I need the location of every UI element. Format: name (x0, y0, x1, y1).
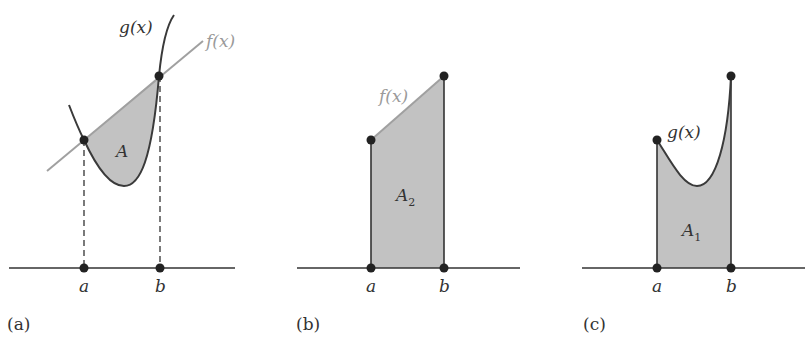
g-label: g(x) (667, 122, 701, 142)
g-point-b (727, 72, 736, 81)
caption-a: (a) (7, 314, 30, 334)
f-label: f(x) (204, 31, 235, 51)
panel-a: g(x) f(x) A a b (a) (7, 15, 235, 334)
axis-point-b (440, 264, 449, 273)
area-letter: A (680, 220, 694, 240)
axis-point-b (727, 264, 736, 273)
b-label: b (439, 276, 450, 296)
f-point-b (440, 72, 449, 81)
b-label: b (155, 276, 166, 296)
axis-point-a (367, 264, 376, 273)
g-label: g(x) (119, 17, 153, 37)
panel-c: g(x) A1 a b (c) (582, 72, 805, 335)
area-subscript: 2 (408, 196, 415, 209)
f-point-a (367, 136, 376, 145)
intersection-point-a (80, 136, 89, 145)
b-label: b (726, 276, 737, 296)
area-subscript: 1 (694, 231, 701, 244)
caption-b: (b) (296, 314, 320, 334)
axis-point-a (80, 264, 89, 273)
a-label: a (652, 276, 662, 296)
area-label: A (114, 141, 128, 161)
a-label: a (366, 276, 376, 296)
panel-b: f(x) A2 a b (b) (296, 72, 520, 335)
g-point-a (653, 136, 662, 145)
intersection-point-b (155, 72, 164, 81)
axis-point-a (653, 264, 662, 273)
figure-canvas: g(x) f(x) A a b (a) f(x) A2 a b (b) g(x)… (0, 0, 807, 354)
caption-c: (c) (583, 314, 606, 334)
area-letter: A (394, 185, 408, 205)
f-label: f(x) (377, 86, 408, 106)
a-label: a (79, 276, 89, 296)
axis-point-b (156, 264, 165, 273)
